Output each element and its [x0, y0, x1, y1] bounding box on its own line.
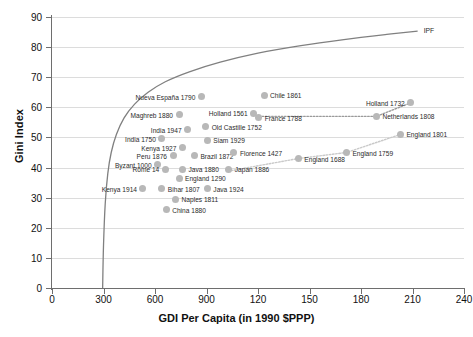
data-point-label: England 1801 — [406, 131, 447, 138]
data-point[interactable] — [158, 185, 165, 192]
y-tick-label: 70 — [0, 72, 42, 83]
x-tick-label: 0 — [27, 294, 77, 305]
data-point-label: India 1947 — [151, 126, 182, 133]
x-tick-label: 150 — [285, 294, 335, 305]
y-tick-label: 80 — [0, 42, 42, 53]
data-point-label: France 1788 — [265, 114, 302, 121]
data-point-label: Maghreb 1880 — [131, 111, 174, 118]
x-tick-label: 120 — [233, 294, 283, 305]
data-point[interactable] — [407, 99, 414, 106]
data-point[interactable] — [204, 137, 211, 144]
data-point[interactable] — [343, 149, 350, 156]
data-point[interactable] — [255, 114, 262, 121]
x-axis-title: GDI Per Capita (in 1990 $PPP) — [0, 312, 473, 324]
data-point-label: Brazil 1872 — [200, 152, 233, 159]
y-tick — [46, 258, 52, 259]
data-point-label: Old Castille 1752 — [212, 123, 262, 130]
data-point-label: England 1688 — [304, 155, 345, 162]
data-point-label: Bihar 1807 — [168, 185, 200, 192]
y-tick-label: 30 — [0, 192, 42, 203]
y-tick — [46, 17, 52, 18]
data-point-label: Florence 1427 — [240, 149, 282, 156]
x-tick-label: 180 — [336, 294, 386, 305]
data-point-label: Netherlands 1808 — [382, 113, 434, 120]
data-point-label: Java 1880 — [188, 166, 218, 173]
data-point[interactable] — [261, 92, 268, 99]
data-point-label: England 1759 — [352, 149, 393, 156]
gridline — [52, 47, 464, 48]
y-tick — [46, 228, 52, 229]
data-point-label: Japan 1886 — [235, 166, 269, 173]
data-point[interactable] — [162, 166, 169, 173]
data-point[interactable] — [176, 175, 183, 182]
data-point-label: Naples 1811 — [182, 196, 219, 203]
y-axis-line — [51, 15, 52, 290]
y-tick-label: 40 — [0, 162, 42, 173]
data-point[interactable] — [179, 166, 186, 173]
data-point-label: Kenya 1914 — [102, 185, 137, 192]
data-point[interactable] — [191, 152, 198, 159]
y-tick — [46, 137, 52, 138]
data-point[interactable] — [225, 166, 232, 173]
chart-container: Gini Index GDI Per Capita (in 1990 $PPP)… — [0, 0, 473, 337]
y-tick-label: 60 — [0, 102, 42, 113]
gridline — [52, 77, 464, 78]
x-tick-label: 210 — [388, 294, 438, 305]
data-point-label: Java 1924 — [213, 185, 243, 192]
data-point-label: Rome 14 — [133, 166, 160, 173]
gridline — [52, 198, 464, 199]
data-point[interactable] — [172, 196, 179, 203]
y-tick-label: 0 — [0, 283, 42, 294]
data-point[interactable] — [158, 135, 165, 142]
gridline — [52, 228, 464, 229]
data-point-label: Peru 1876 — [137, 152, 167, 159]
ipf-curve-label: IPF — [424, 27, 435, 34]
y-tick — [46, 168, 52, 169]
data-point-label: China 1880 — [172, 206, 206, 213]
data-point-label: Holland 1561 — [209, 110, 248, 117]
data-point[interactable] — [139, 185, 146, 192]
data-point-label: Chile 1861 — [270, 92, 302, 99]
data-point-label: Kenya 1927 — [141, 144, 176, 151]
y-tick-label: 10 — [0, 252, 42, 263]
gridline — [52, 17, 464, 18]
y-tick — [46, 107, 52, 108]
y-tick-label: 50 — [0, 132, 42, 143]
data-point-label: Nueva España 1790 — [136, 93, 196, 100]
data-point[interactable] — [202, 123, 209, 130]
data-point[interactable] — [163, 206, 170, 213]
data-point[interactable] — [373, 113, 380, 120]
data-point[interactable] — [397, 131, 404, 138]
y-tick — [46, 198, 52, 199]
x-tick-label: 600 — [130, 294, 180, 305]
data-point-label: England 1290 — [185, 175, 226, 182]
x-tick-label: 300 — [79, 294, 129, 305]
y-tick — [46, 77, 52, 78]
gridline — [52, 107, 464, 108]
x-tick-label: 240 — [439, 294, 473, 305]
data-point-label: Holland 1732 — [366, 99, 405, 106]
y-tick — [46, 47, 52, 48]
data-point[interactable] — [179, 144, 186, 151]
y-tick-label: 20 — [0, 222, 42, 233]
y-tick-label: 90 — [0, 12, 42, 23]
gridline — [52, 258, 464, 259]
data-point[interactable] — [295, 155, 302, 162]
data-point[interactable] — [176, 111, 183, 118]
data-point[interactable] — [204, 185, 211, 192]
data-point[interactable] — [198, 93, 205, 100]
data-point[interactable] — [170, 152, 177, 159]
gridline — [52, 137, 464, 138]
x-tick-label: 900 — [182, 294, 232, 305]
data-point-label: India 1750 — [125, 135, 156, 142]
data-point-label: Siam 1929 — [213, 137, 245, 144]
data-point[interactable] — [184, 126, 191, 133]
data-point[interactable] — [230, 149, 237, 156]
